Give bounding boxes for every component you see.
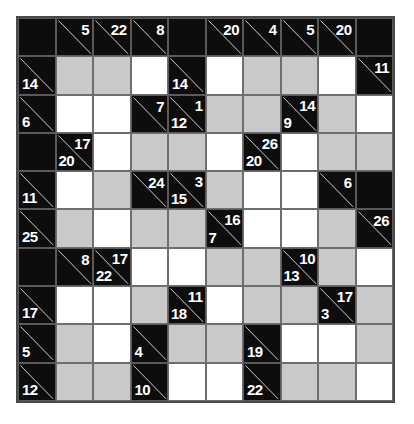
answer-cell-r3c9[interactable]: [356, 133, 394, 171]
answer-cell-r5c3[interactable]: [131, 209, 169, 247]
answer-cell-r7c7[interactable]: [281, 286, 319, 324]
clue-cell-r2c7: 149: [281, 95, 319, 133]
across-clue: 5: [22, 344, 30, 359]
answer-cell-r2c8[interactable]: [318, 95, 356, 133]
answer-cell-r5c4[interactable]: [168, 209, 206, 247]
answer-cell-r1c7[interactable]: [281, 56, 319, 94]
answer-cell-r9c4[interactable]: [168, 363, 206, 401]
answer-cell-r8c5[interactable]: [206, 324, 244, 362]
answer-cell-r4c6[interactable]: [243, 171, 281, 209]
answer-cell-r7c1[interactable]: [56, 286, 94, 324]
clue-cell-r2c4: 112: [168, 95, 206, 133]
answer-cell-r6c3[interactable]: [131, 248, 169, 286]
down-clue: 8: [81, 252, 89, 267]
answer-cell-r7c6[interactable]: [243, 286, 281, 324]
answer-cell-r6c9[interactable]: [356, 248, 394, 286]
answer-cell-r7c5[interactable]: [206, 286, 244, 324]
answer-cell-r6c6[interactable]: [243, 248, 281, 286]
clue-cell-r3c6: 2620: [243, 133, 281, 171]
answer-cell-r1c2[interactable]: [93, 56, 131, 94]
answer-cell-r9c2[interactable]: [93, 363, 131, 401]
answer-cell-r9c5[interactable]: [206, 363, 244, 401]
answer-cell-r3c2[interactable]: [93, 133, 131, 171]
answer-cell-r3c5[interactable]: [206, 133, 244, 171]
answer-cell-r5c2[interactable]: [93, 209, 131, 247]
answer-cell-r9c8[interactable]: [318, 363, 356, 401]
clue-cell-r1c0: 14: [18, 56, 56, 94]
answer-cell-r6c4[interactable]: [168, 248, 206, 286]
answer-cell-r1c1[interactable]: [56, 56, 94, 94]
clue-cell-r5c5: 167: [206, 209, 244, 247]
answer-cell-r4c7[interactable]: [281, 171, 319, 209]
answer-cell-r3c8[interactable]: [318, 133, 356, 171]
answer-cell-r8c1[interactable]: [56, 324, 94, 362]
answer-cell-r4c5[interactable]: [206, 171, 244, 209]
answer-cell-r9c7[interactable]: [281, 363, 319, 401]
answer-cell-r1c3[interactable]: [131, 56, 169, 94]
down-clue: 4: [269, 22, 277, 37]
across-clue: 12: [22, 382, 38, 397]
clue-cell-r5c0: 25: [18, 209, 56, 247]
answer-cell-r2c6[interactable]: [243, 95, 281, 133]
answer-cell-r5c8[interactable]: [318, 209, 356, 247]
down-clue: 26: [373, 213, 389, 228]
answer-cell-r5c6[interactable]: [243, 209, 281, 247]
answer-cell-r1c8[interactable]: [318, 56, 356, 94]
filler-block-r4c9: [356, 171, 394, 209]
answer-cell-r8c2[interactable]: [93, 324, 131, 362]
answer-cell-r1c5[interactable]: [206, 56, 244, 94]
down-clue: 16: [224, 212, 240, 227]
answer-cell-r7c3[interactable]: [131, 286, 169, 324]
kakuro-grid[interactable]: 5228204520141411671121491720262011243156…: [16, 16, 395, 403]
clue-cell-r6c7: 1013: [281, 248, 319, 286]
down-clue: 24: [148, 175, 164, 190]
down-clue: 1: [195, 98, 203, 113]
answer-cell-r7c2[interactable]: [93, 286, 131, 324]
clue-cell-r4c0: 11: [18, 171, 56, 209]
across-clue: 22: [96, 268, 112, 283]
across-clue: 20: [59, 153, 75, 168]
answer-cell-r8c9[interactable]: [356, 324, 394, 362]
clue-cell-r4c4: 315: [168, 171, 206, 209]
answer-cell-r8c7[interactable]: [281, 324, 319, 362]
filler-block-r6c0: [18, 248, 56, 286]
kakuro-puzzle: 5228204520141411671121491720262011243156…: [0, 0, 414, 424]
across-clue: 17: [22, 305, 38, 320]
across-clue: 19: [247, 344, 263, 359]
across-clue: 14: [172, 76, 188, 91]
across-clue: 22: [247, 382, 263, 397]
answer-cell-r3c7[interactable]: [281, 133, 319, 171]
answer-cell-r2c9[interactable]: [356, 95, 394, 133]
clue-cell-r4c8: 6: [318, 171, 356, 209]
answer-cell-r4c2[interactable]: [93, 171, 131, 209]
clue-cell-r0c7: 5: [281, 18, 319, 56]
across-clue: 12: [171, 115, 187, 130]
answer-cell-r3c3[interactable]: [131, 133, 169, 171]
answer-cell-r9c9[interactable]: [356, 363, 394, 401]
answer-cell-r5c1[interactable]: [56, 209, 94, 247]
clue-cell-r8c3: 4: [131, 324, 169, 362]
filler-block-r0c0: [18, 18, 56, 56]
answer-cell-r8c4[interactable]: [168, 324, 206, 362]
clue-cell-r5c9: 26: [356, 209, 394, 247]
answer-cell-r6c5[interactable]: [206, 248, 244, 286]
answer-cell-r2c5[interactable]: [206, 95, 244, 133]
answer-cell-r6c8[interactable]: [318, 248, 356, 286]
answer-cell-r3c4[interactable]: [168, 133, 206, 171]
across-clue: 6: [22, 114, 30, 129]
clue-cell-r2c3: 7: [131, 95, 169, 133]
down-clue: 20: [223, 22, 239, 37]
answer-cell-r2c2[interactable]: [93, 95, 131, 133]
clue-cell-r6c1: 8: [56, 248, 94, 286]
answer-cell-r1c6[interactable]: [243, 56, 281, 94]
answer-cell-r7c9[interactable]: [356, 286, 394, 324]
answer-cell-r5c7[interactable]: [281, 209, 319, 247]
down-clue: 5: [81, 22, 89, 37]
answer-cell-r9c1[interactable]: [56, 363, 94, 401]
answer-cell-r8c8[interactable]: [318, 324, 356, 362]
answer-cell-r2c1[interactable]: [56, 95, 94, 133]
across-clue: 15: [171, 191, 187, 206]
answer-cell-r4c1[interactable]: [56, 171, 94, 209]
down-clue: 17: [337, 289, 353, 304]
clue-cell-r1c9: 11: [356, 56, 394, 94]
